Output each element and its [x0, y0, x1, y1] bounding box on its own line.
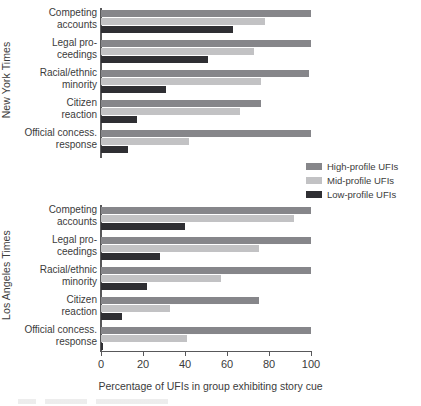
bar [101, 70, 309, 77]
bar [101, 245, 259, 252]
x-axis-tick-label: 0 [98, 358, 104, 370]
category-label-line: Citizen [3, 294, 97, 306]
grouped-bar-chart-figure: New York Times CompetingaccountsLegal pr… [0, 0, 421, 406]
bar [101, 18, 265, 25]
category-label-line: Official concess. [3, 127, 97, 139]
category-label-line: Racial/ethnic [3, 67, 97, 79]
category-label-line: ceedings [3, 246, 97, 258]
bar [101, 40, 311, 47]
bar [101, 108, 240, 115]
x-axis-tick [101, 351, 102, 356]
category-label: Citizenreaction [3, 294, 97, 317]
bar [101, 335, 187, 342]
category-label-line: response [3, 139, 97, 151]
x-axis-tick [311, 351, 312, 356]
category-label-line: accounts [3, 19, 97, 31]
category-label-line: minority [3, 276, 97, 288]
bar [101, 267, 311, 274]
legend: High-profile UFIsMid-profile UFIsLow-pro… [306, 160, 421, 202]
category-label-line: ceedings [3, 49, 97, 61]
bar-group [101, 100, 311, 124]
category-label-line: reaction [3, 306, 97, 318]
x-axis-tick-label: 80 [263, 358, 275, 370]
bar [101, 86, 166, 93]
category-label-line: Official concess. [3, 324, 97, 336]
x-axis-tick-label: 40 [179, 358, 191, 370]
x-axis-tick-label: 20 [137, 358, 149, 370]
bar [101, 138, 189, 145]
category-label-line: response [3, 336, 97, 348]
bar [101, 253, 160, 260]
bar-group [101, 327, 311, 351]
category-label-line: Competing [3, 7, 97, 19]
bar [101, 26, 233, 33]
bar [101, 313, 122, 320]
bar [101, 207, 311, 214]
bar-group [101, 237, 311, 261]
legend-item: Mid-profile UFIs [306, 174, 421, 187]
category-label-line: reaction [3, 109, 97, 121]
category-label: Official concess.response [3, 324, 97, 347]
category-label-line: Legal pro- [3, 37, 97, 49]
bar-group [101, 130, 311, 154]
category-label-line: accounts [3, 216, 97, 228]
bar [101, 78, 261, 85]
bar-group [101, 207, 311, 231]
bar [101, 237, 311, 244]
legend-item-label: Low-profile UFIs [327, 189, 396, 200]
category-label-line: Citizen [3, 97, 97, 109]
bar-group [101, 297, 311, 321]
x-axis: 020406080100 [101, 351, 311, 381]
bar-group [101, 10, 311, 34]
bar [101, 116, 137, 123]
bar [101, 10, 311, 17]
bar [101, 56, 208, 63]
category-labels-los-angeles-times: CompetingaccountsLegal pro-ceedingsRacia… [0, 205, 97, 351]
bar [101, 327, 311, 334]
legend-item-label: Mid-profile UFIs [327, 175, 394, 186]
bar [101, 100, 261, 107]
bar [101, 343, 103, 350]
bar [101, 305, 170, 312]
category-labels-new-york-times: CompetingaccountsLegal pro-ceedingsRacia… [0, 8, 97, 158]
x-axis-tick [185, 351, 186, 356]
legend-swatch-icon [306, 177, 322, 184]
category-label-line: Racial/ethnic [3, 264, 97, 276]
category-label: Racial/ethnicminority [3, 264, 97, 287]
bar [101, 283, 147, 290]
category-label-line: minority [3, 79, 97, 91]
category-label: Legal pro-ceedings [3, 37, 97, 60]
legend-swatch-icon [306, 163, 322, 170]
legend-item: Low-profile UFIs [306, 188, 421, 201]
bar-group [101, 40, 311, 64]
bar [101, 275, 221, 282]
bar [101, 146, 128, 153]
category-label: Competingaccounts [3, 204, 97, 227]
legend-item-label: High-profile UFIs [327, 161, 398, 172]
bar [101, 130, 311, 137]
x-axis-line [100, 351, 312, 352]
legend-swatch-icon [306, 191, 322, 198]
page-caption-fragment [18, 399, 168, 404]
category-label: Citizenreaction [3, 97, 97, 120]
category-label-line: Competing [3, 204, 97, 216]
legend-item: High-profile UFIs [306, 160, 421, 173]
x-axis-tick-label: 60 [221, 358, 233, 370]
bar [101, 48, 254, 55]
bar [101, 215, 294, 222]
bar-group [101, 70, 311, 94]
category-label: Racial/ethnicminority [3, 67, 97, 90]
category-label-line: Legal pro- [3, 234, 97, 246]
category-label: Legal pro-ceedings [3, 234, 97, 257]
x-axis-tick [269, 351, 270, 356]
x-axis-tick [227, 351, 228, 356]
bar [101, 297, 259, 304]
plot-area-new-york-times [101, 8, 311, 158]
x-axis-title: Percentage of UFIs in group exhibiting s… [0, 380, 421, 392]
plot-area-los-angeles-times [101, 205, 311, 351]
bar-group [101, 267, 311, 291]
x-axis-tick [143, 351, 144, 356]
x-axis-tick-label: 100 [302, 358, 320, 370]
category-label: Official concess.response [3, 127, 97, 150]
category-label: Competingaccounts [3, 7, 97, 30]
